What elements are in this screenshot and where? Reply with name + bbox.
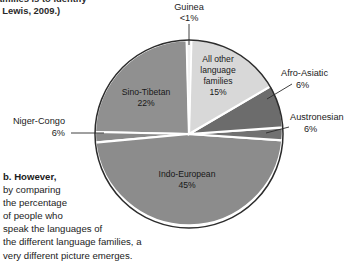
caption-line: speak the languages of	[3, 222, 255, 235]
slice-value-all-other: 15%	[209, 87, 227, 97]
caption-line: b. However,	[3, 170, 255, 183]
figure-root: families is to identify n Lewis, 2009.)	[0, 0, 355, 274]
slice-label-sino-tibetan: Sino-Tibetan	[122, 87, 171, 97]
callout-value-niger-congo: 6%	[52, 128, 65, 138]
caption-line: the different language families, a	[3, 235, 255, 248]
callout-value-austronesian: 6%	[304, 124, 317, 134]
callout-label-afro-asiatic: Afro-Asiatic	[281, 68, 328, 78]
callout-label-austronesian: Austronesian	[290, 112, 344, 122]
slice-label-all-other-line3: families	[203, 76, 232, 86]
slice-value-sino-tibetan: 22%	[137, 98, 155, 108]
callout-label-guinea: Guinea	[174, 2, 205, 12]
caption-line: very different picture emerges.	[3, 249, 255, 262]
slice-label-all-other-line2: language	[200, 65, 236, 75]
callout-value-guinea: <1%	[180, 13, 199, 23]
caption-line: the percentage	[3, 196, 255, 209]
figure-caption: b. However, by comparing the percentage …	[3, 170, 255, 262]
caption-line: of people who	[3, 209, 255, 222]
caption-line: by comparing	[3, 183, 255, 196]
callout-value-afro-asiatic: 6%	[296, 80, 309, 90]
slice-label-all-other-line1: All other	[202, 54, 234, 64]
callout-label-niger-congo: Niger-Congo	[13, 116, 65, 126]
